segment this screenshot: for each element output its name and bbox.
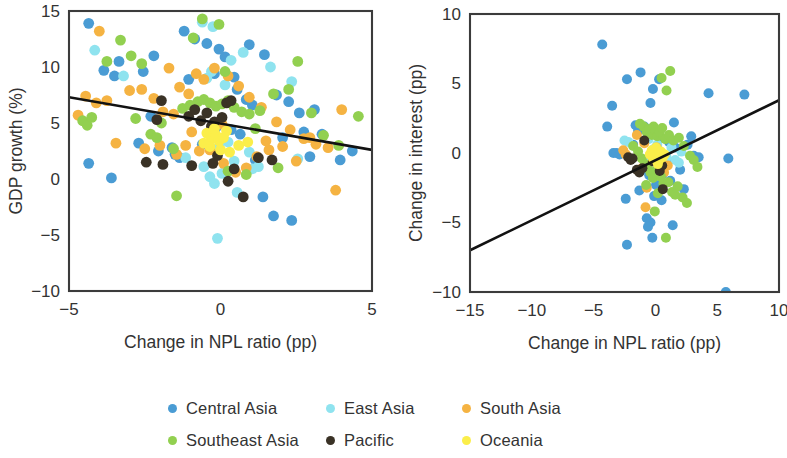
data-point: [658, 184, 668, 194]
legend-swatch-southeast-asia: [168, 436, 177, 445]
data-point: [233, 81, 244, 92]
data-point: [238, 47, 249, 58]
series-central-asia: [597, 40, 749, 297]
legend-swatch-south-asia: [462, 404, 471, 413]
data-point: [198, 74, 209, 85]
data-point: [258, 192, 269, 203]
legend-swatch-oceania: [462, 436, 471, 445]
data-point: [268, 88, 279, 99]
data-point: [723, 154, 733, 164]
data-point: [201, 38, 212, 49]
data-point: [645, 98, 655, 108]
data-point: [115, 35, 126, 46]
legend-label-pacific: Pacific: [344, 431, 394, 450]
data-point: [271, 116, 282, 127]
legend-label-southeast-asia: Southeast Asia: [186, 431, 299, 450]
data-point: [259, 49, 270, 60]
data-point: [292, 56, 303, 67]
data-point: [212, 233, 223, 244]
data-point: [668, 220, 678, 230]
data-point: [291, 156, 302, 167]
data-point: [164, 63, 175, 74]
legend-label-south-asia: South Asia: [480, 399, 561, 418]
data-point: [244, 92, 255, 103]
data-point: [220, 66, 231, 77]
chart-legend: Central Asia East Asia South Asia Southe…: [168, 392, 628, 456]
y-tick-label: 10: [442, 5, 461, 24]
data-point: [670, 190, 680, 200]
data-point: [241, 169, 252, 180]
legend-label-central-asia: Central Asia: [186, 399, 277, 418]
data-point: [118, 71, 129, 82]
legend-item-central-asia[interactable]: Central Asia: [168, 399, 326, 418]
x-tick-label: −15: [456, 301, 485, 320]
data-point: [188, 32, 199, 43]
data-point: [148, 50, 159, 61]
data-point: [139, 143, 150, 154]
x-tick-label: 10: [770, 301, 787, 320]
data-point: [186, 127, 197, 138]
data-point: [226, 95, 237, 106]
data-point: [645, 149, 655, 159]
data-point: [335, 155, 346, 166]
x-tick-label: −10: [517, 301, 546, 320]
data-point: [285, 124, 296, 135]
data-point: [111, 138, 122, 149]
data-point: [244, 109, 255, 120]
data-point: [648, 84, 658, 94]
data-point: [261, 136, 272, 147]
legend-label-oceania: Oceania: [480, 431, 543, 450]
y-tick-label: 0: [452, 144, 461, 163]
data-point: [294, 108, 305, 119]
data-point: [268, 211, 279, 222]
legend-item-pacific[interactable]: Pacific: [326, 431, 462, 450]
data-point: [602, 122, 612, 132]
x-tick-label: 5: [712, 301, 721, 320]
legend-item-east-asia[interactable]: East Asia: [326, 399, 462, 418]
x-axis-title: Change in NPL ratio (pp): [124, 332, 317, 352]
data-point: [639, 135, 649, 145]
data-point: [124, 85, 135, 96]
y-tick-label: −10: [432, 283, 461, 302]
legend-label-east-asia: East Asia: [344, 399, 415, 418]
data-point: [674, 133, 684, 143]
data-point: [665, 66, 675, 76]
chart-panel-interest: −15−10−50510−10−50510Change in NPL ratio…: [400, 0, 787, 390]
data-point: [223, 176, 234, 187]
data-point: [650, 206, 660, 216]
data-point: [635, 119, 645, 129]
data-point: [277, 141, 288, 152]
data-point: [221, 125, 232, 136]
y-tick-label: −5: [442, 213, 461, 232]
data-point: [151, 114, 162, 125]
data-point: [126, 50, 137, 61]
data-point: [101, 56, 112, 67]
data-point: [242, 137, 253, 148]
data-point: [286, 215, 297, 226]
data-point: [214, 44, 225, 55]
data-point: [682, 198, 692, 208]
data-point: [692, 162, 702, 172]
data-point: [597, 40, 607, 50]
data-point: [180, 140, 191, 151]
data-point: [136, 58, 147, 69]
data-point: [238, 192, 249, 203]
data-point: [174, 82, 185, 93]
data-point: [168, 143, 179, 154]
y-tick-label: 5: [51, 114, 60, 133]
trend-line: [470, 100, 779, 250]
data-point: [330, 185, 341, 196]
legend-item-south-asia[interactable]: South Asia: [462, 399, 622, 418]
data-point: [215, 144, 226, 155]
y-tick-label: −5: [41, 226, 60, 245]
data-point: [622, 240, 632, 250]
legend-item-oceania[interactable]: Oceania: [462, 431, 622, 450]
data-point: [669, 117, 679, 127]
data-point: [643, 222, 653, 232]
data-point: [156, 95, 167, 106]
data-point: [647, 233, 657, 243]
data-point: [336, 104, 347, 115]
data-point: [209, 63, 220, 74]
legend-item-southeast-asia[interactable]: Southeast Asia: [168, 431, 326, 450]
data-point: [158, 159, 169, 170]
